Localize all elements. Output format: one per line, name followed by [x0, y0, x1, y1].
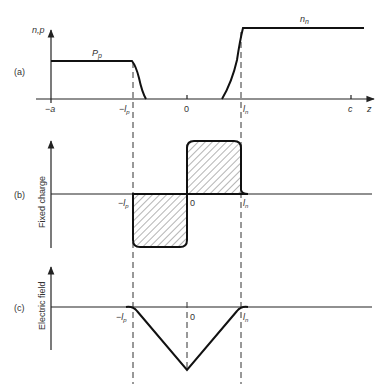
panel-c-y-label: Electric field	[37, 281, 47, 330]
panel-a: (a) n,p Pp nn −a −lp 0 ln c z	[14, 14, 374, 115]
tick-label-ln: ln	[243, 104, 249, 115]
panel-b-y-label: Fixed charge	[37, 176, 47, 228]
panel-c: (c) Electric field −lp 0 ln	[14, 267, 372, 372]
panel-b-label: (b)	[14, 190, 25, 200]
tick-label-ln: ln	[243, 312, 249, 323]
negative-charge-region	[133, 194, 187, 247]
pp-label: Pp	[92, 48, 102, 60]
tick-label-zero: 0	[184, 104, 189, 114]
tick-label-zero: 0	[190, 198, 195, 208]
p-concentration-curve	[51, 61, 146, 99]
positive-charge-region	[187, 141, 248, 194]
x-axis-label-z: z	[366, 104, 372, 114]
panel-c-label: (c)	[14, 303, 25, 313]
panel-b: (b) Fixed charge −lp 0 ln	[14, 141, 372, 248]
nn-label: nn	[300, 14, 309, 25]
tick-label-minus-lp: −lp	[119, 104, 130, 115]
pn-junction-diagram: (a) n,p Pp nn −a −lp 0 ln c z (b) Fixed …	[0, 0, 388, 386]
tick-label-minus-a: −a	[45, 104, 55, 114]
tick-label-ln: ln	[243, 198, 249, 209]
panel-a-label: (a)	[14, 67, 25, 77]
panel-a-y-label: n,p	[32, 25, 45, 35]
tick-label-c: c	[348, 104, 353, 114]
tick-label-minus-lp: −lp	[116, 312, 127, 323]
n-concentration-curve	[222, 28, 364, 99]
tick-label-zero: 0	[190, 312, 195, 322]
tick-label-minus-lp: −lp	[118, 198, 129, 209]
